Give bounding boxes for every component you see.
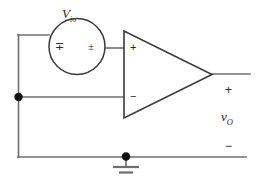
opamp-inverting-input-label: − [130,91,136,102]
voltage-source-subscript: io [70,15,76,24]
output-minus-sign-label: − [225,140,232,152]
opamp-triangle [124,31,212,118]
voltage-source-symbol: V [62,6,70,21]
opamp-noninverting-input-label: + [130,42,136,53]
ground-symbol [113,167,139,173]
junction-dot-left-node [14,93,22,101]
output-voltage-subscript: O [227,117,233,127]
circuit-schematic-svg [0,0,256,189]
output-plus-sign-label: + [225,84,232,96]
junction-dot-ground-node [122,152,130,160]
output-voltage-label: vO [221,110,233,126]
voltage-source-left-terminal-sign: ∓ [55,41,64,52]
circuit-diagram-canvas: Vio ∓ ± + − + vO − [0,0,256,189]
voltage-source-right-terminal-sign: ± [88,41,94,52]
voltage-source-label: Vio [62,7,76,24]
